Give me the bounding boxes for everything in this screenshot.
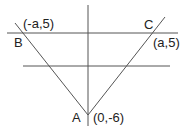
label-b: B xyxy=(14,35,23,50)
label-a: A xyxy=(72,110,81,125)
label-a-coord: (0,-6) xyxy=(93,110,124,125)
line-ab xyxy=(15,23,88,115)
label-b-coord: (-a,5) xyxy=(23,16,54,31)
label-c-coord: (a,5) xyxy=(153,35,180,50)
geometry-diagram: (-a,5) B C (a,5) A (0,-6) xyxy=(0,0,190,138)
label-c: C xyxy=(144,17,153,32)
